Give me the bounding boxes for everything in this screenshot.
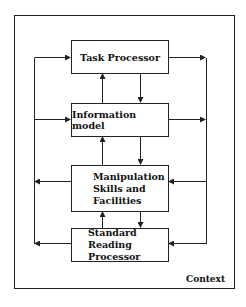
standard-reading-processor-box: Standard Reading Processor xyxy=(71,228,169,262)
task-processor-label: Task Processor xyxy=(80,52,160,63)
information-model-label: Information model xyxy=(72,109,168,131)
manipulation-skills-box: Manipulation Skills and Facilities xyxy=(71,165,169,212)
manipulation-line-3: Facilities xyxy=(93,195,168,207)
context-label: Context xyxy=(186,274,225,284)
standard-reading-line-2: Processor xyxy=(88,251,168,263)
manipulation-line-2: Skills and xyxy=(93,183,168,195)
task-processor-box: Task Processor xyxy=(71,40,169,74)
manipulation-line-1: Manipulation xyxy=(93,171,168,183)
information-model-box: Information model xyxy=(71,103,169,137)
standard-reading-line-1: Standard Reading xyxy=(88,227,168,251)
